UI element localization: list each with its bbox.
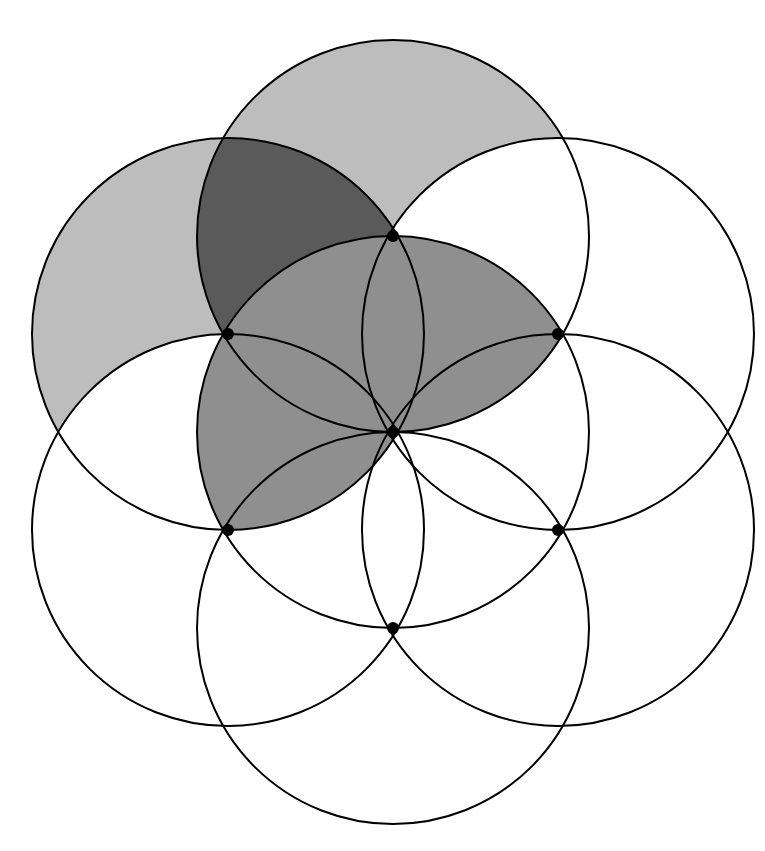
intersection-point [222,524,234,536]
intersection-point [552,524,564,536]
shaded-regions [32,40,589,530]
intersection-point [387,230,399,242]
intersection-point [387,622,399,634]
circles-diagram [0,0,765,851]
intersection-point [222,328,234,340]
intersection-point [552,328,564,340]
intersection-point [387,426,399,438]
